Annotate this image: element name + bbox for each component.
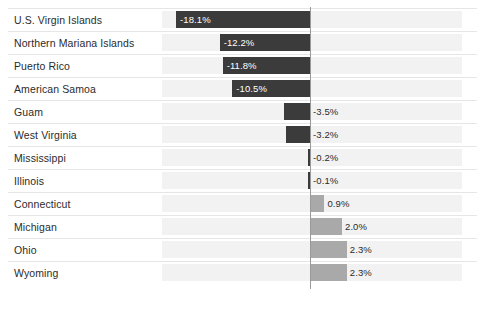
category-label: Wyoming (14, 261, 58, 284)
chart-row: Illinois-0.1% (0, 169, 485, 192)
bar-value-label: 2.3% (347, 238, 372, 261)
category-label: West Virginia (14, 123, 77, 146)
bar-value-label: 2.0% (342, 215, 367, 238)
bar-value-label: -18.1% (176, 8, 211, 31)
row-divider (8, 192, 477, 193)
chart-row: West Virginia-3.2% (0, 123, 485, 146)
row-divider (8, 123, 477, 124)
bar-chart: U.S. Virgin Islands-18.1%Northern Marian… (0, 0, 485, 311)
row-divider (8, 169, 477, 170)
row-background-band (162, 80, 462, 97)
chart-rows: U.S. Virgin Islands-18.1%Northern Marian… (0, 0, 485, 311)
chart-row: U.S. Virgin Islands-18.1% (0, 8, 485, 31)
chart-row: Puerto Rico-11.8% (0, 54, 485, 77)
category-label: Ohio (14, 238, 37, 261)
bar (310, 218, 342, 235)
category-label: Michigan (14, 215, 57, 238)
bar-value-label: -12.2% (220, 31, 255, 54)
bar (310, 241, 347, 258)
category-label: Puerto Rico (14, 54, 70, 77)
row-divider (8, 146, 477, 147)
chart-row: Wyoming2.3% (0, 261, 485, 284)
row-background-band (162, 57, 462, 74)
bar-value-label: -11.8% (223, 54, 257, 77)
chart-row: Ohio2.3% (0, 238, 485, 261)
category-label: Northern Mariana Islands (14, 31, 134, 54)
bar-value-label: -3.5% (310, 100, 338, 123)
chart-row: Michigan2.0% (0, 215, 485, 238)
category-label: U.S. Virgin Islands (14, 8, 102, 31)
bar (284, 103, 310, 120)
row-divider (8, 238, 477, 239)
bar-value-label: -0.2% (310, 146, 338, 169)
category-label: Connecticut (14, 192, 71, 215)
row-divider (8, 100, 477, 101)
bar-value-label: 2.3% (347, 261, 372, 284)
row-divider (8, 261, 477, 262)
category-label: Mississippi (14, 146, 66, 169)
bar-value-label: 0.9% (324, 192, 349, 215)
chart-row: Guam-3.5% (0, 100, 485, 123)
bar (310, 264, 347, 281)
bar (310, 195, 324, 212)
category-label: American Samoa (14, 77, 96, 100)
bar-value-label: -10.5% (232, 77, 267, 100)
chart-row: American Samoa-10.5% (0, 77, 485, 100)
bar (286, 126, 310, 143)
chart-row: Mississippi-0.2% (0, 146, 485, 169)
bar-value-label: -0.1% (310, 169, 338, 192)
chart-row: Connecticut0.9% (0, 192, 485, 215)
row-divider (8, 215, 477, 216)
category-label: Guam (14, 100, 43, 123)
zero-axis-line (310, 7, 311, 289)
row-background-band (162, 34, 462, 51)
category-label: Illinois (14, 169, 44, 192)
bar-value-label: -3.2% (310, 123, 338, 146)
chart-row: Northern Mariana Islands-12.2% (0, 31, 485, 54)
